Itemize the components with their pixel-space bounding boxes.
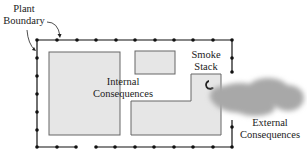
external-consequences-label: External Consequences [233, 117, 307, 141]
smoke-cloud [210, 78, 304, 116]
label-line: Consequences [88, 88, 158, 100]
internal-consequences-label: Internal Consequences [88, 76, 158, 100]
label-line: Internal [88, 76, 158, 88]
smoke-stack-label: Smoke Stack [186, 49, 226, 73]
label-line: Smoke [186, 49, 226, 61]
label-line: Boundary [2, 15, 46, 27]
label-line: External [233, 117, 307, 129]
label-line: Stack [186, 61, 226, 73]
building-small [135, 51, 175, 74]
plant-boundary-label: Plant Boundary [2, 3, 46, 27]
label-line: Plant [2, 3, 46, 15]
label-line: Consequences [233, 129, 307, 141]
